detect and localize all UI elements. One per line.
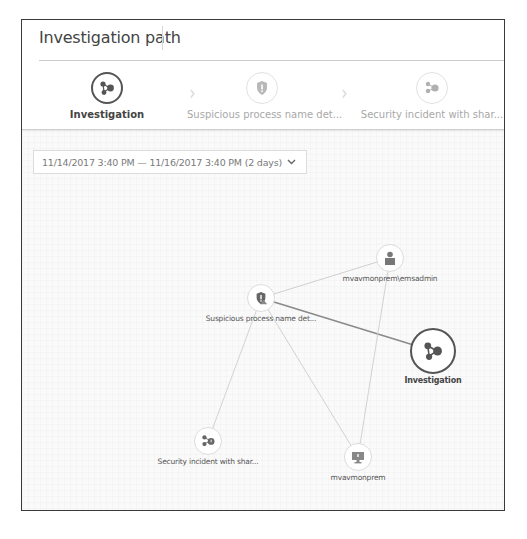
investigation-steps: Investigation › Suspicious process name …: [22, 62, 504, 130]
panel-header: Investigation path Investigation ›: [22, 20, 504, 130]
graph-node-investigation[interactable]: Investigation: [383, 328, 483, 385]
step-chevron-icon: ›: [341, 80, 347, 105]
shield-alert-icon: [247, 284, 275, 312]
header-divider: [39, 60, 504, 61]
title-divider: [162, 26, 163, 50]
graph-node-suspicious-process[interactable]: Suspicious process name det...: [201, 284, 321, 323]
investigation-graph-icon: [91, 72, 123, 104]
node-label: Suspicious process name det...: [201, 314, 321, 323]
incident-graph-icon: [194, 427, 222, 455]
step-label: Suspicious process name det...: [187, 109, 337, 120]
user-icon: [376, 244, 404, 272]
investigation-path-panel: Investigation path Investigation ›: [21, 19, 505, 511]
step-suspicious-process[interactable]: Suspicious process name det...: [187, 62, 337, 120]
graph-node-user-emsadmin[interactable]: mvavmonprem\emsadmin: [330, 244, 450, 283]
step-label: Security incident with shar...: [358, 109, 505, 120]
node-label: mvavmonprem: [308, 473, 408, 482]
node-label: Security incident with shar...: [148, 457, 268, 466]
node-label: mvavmonprem\emsadmin: [330, 274, 450, 283]
graph-node-security-incident[interactable]: Security incident with shar...: [148, 427, 268, 466]
graph-node-host-mvavmonprem[interactable]: mvavmonprem: [308, 443, 408, 482]
step-investigation[interactable]: Investigation: [62, 62, 152, 120]
computer-icon: [344, 443, 372, 471]
node-label: Investigation: [383, 376, 483, 385]
page-title: Investigation path: [39, 28, 181, 47]
incident-graph-icon: [416, 72, 448, 104]
investigation-graph-icon: [410, 328, 456, 374]
step-security-incident[interactable]: Security incident with shar...: [358, 62, 505, 120]
shield-alert-icon: [246, 72, 278, 104]
graph-canvas[interactable]: 11/14/2017 3:40 PM — 11/16/2017 3:40 PM …: [22, 130, 504, 511]
step-label: Investigation: [62, 109, 152, 120]
